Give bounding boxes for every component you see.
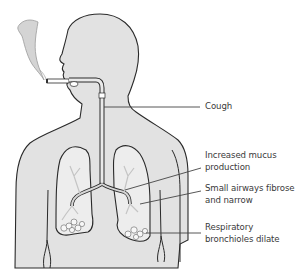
label-cough-line-1: Cough bbox=[205, 101, 232, 113]
label-airways-line-2: and narrow bbox=[205, 195, 295, 207]
label-mucus: Increased mucus production bbox=[205, 150, 277, 173]
label-mucus-line-1: Increased mucus bbox=[205, 150, 277, 162]
larynx bbox=[99, 93, 105, 98]
cigarette-ash bbox=[46, 79, 48, 83]
label-airways-line-1: Small airways fibrose bbox=[205, 183, 295, 195]
label-bronchioles: Respiratory bronchioles dilate bbox=[205, 222, 280, 245]
label-cough: Cough bbox=[205, 101, 232, 113]
label-airways: Small airways fibrose and narrow bbox=[205, 183, 295, 206]
smoke-plume bbox=[18, 20, 44, 80]
cigarette bbox=[47, 79, 69, 83]
mouth-cavity bbox=[70, 82, 78, 87]
label-bronchioles-line-1: Respiratory bbox=[205, 222, 280, 234]
label-mucus-line-2: production bbox=[205, 162, 277, 174]
smoking-respiratory-diagram: Cough Increased mucus production Small a… bbox=[0, 0, 296, 278]
label-bronchioles-line-2: bronchioles dilate bbox=[205, 234, 280, 246]
